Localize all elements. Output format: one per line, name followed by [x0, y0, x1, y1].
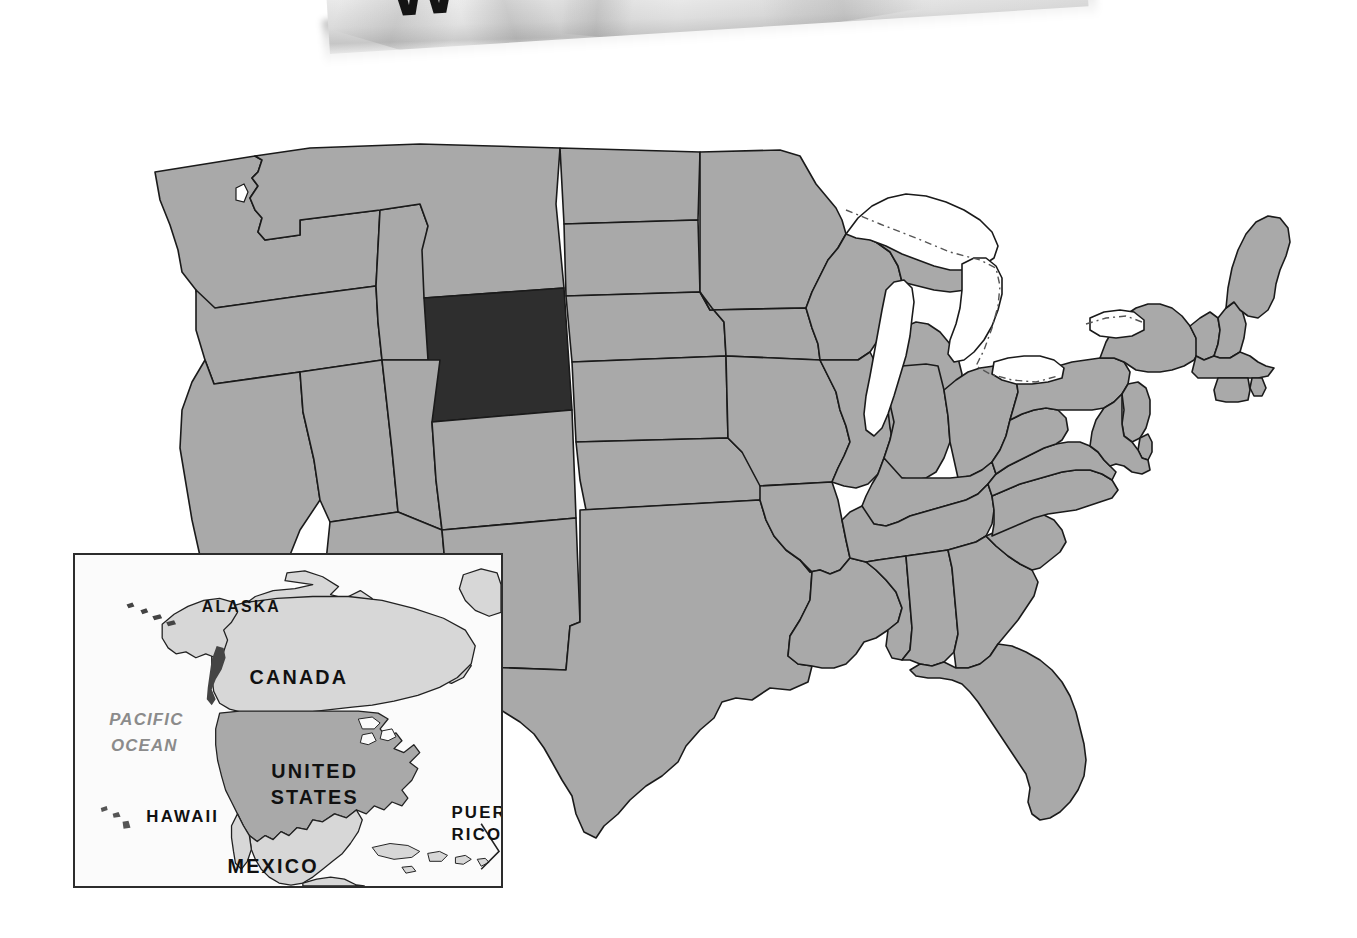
inset-label-rico: RICO	[451, 825, 501, 844]
crumpled-paper-photo: W	[322, 0, 1088, 54]
inset-label-pacific: PACIFIC	[109, 710, 183, 729]
inset-label-mexico: MEXICO	[228, 855, 319, 877]
paper-crease	[746, 0, 924, 35]
north-america-locator-inset: ALASKACANADAPACIFICOCEANUNITEDSTATESHAWA…	[73, 553, 503, 888]
paper-crease	[560, 0, 641, 40]
inset-label-ocean: OCEAN	[111, 736, 178, 755]
inset-label-hawaii: HAWAII	[146, 807, 219, 826]
inset-label-states: STATES	[271, 786, 359, 808]
inset-label-united-states: UNITED	[271, 760, 358, 782]
page-root: W	[0, 0, 1357, 938]
inset-label-canada: CANADA	[249, 666, 348, 688]
paper-title-text: W	[385, 0, 462, 33]
inset-label-alaska: ALASKA	[202, 598, 281, 615]
highlighted-state-wyoming	[424, 288, 572, 422]
inset-label-puerto-rico: PUERTO	[451, 803, 501, 822]
